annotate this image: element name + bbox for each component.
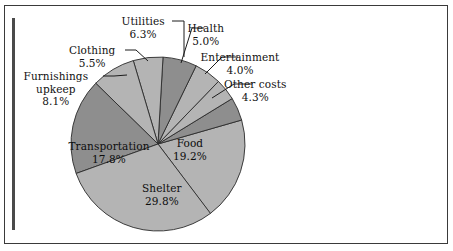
slice-label-food: Food19.2%: [173, 137, 207, 162]
slice-label-name: Furnishingsupkeep: [24, 70, 89, 95]
slice-label-percent: 5.5%: [69, 57, 115, 70]
slice-label-utilities: Utilities6.3%: [122, 15, 165, 40]
slice-label-name: Transportation: [69, 140, 150, 153]
slice-label-entertainment: Entertainment4.0%: [201, 51, 280, 76]
slice-label-percent: 6.3%: [122, 28, 165, 41]
slice-label-health: Health5.0%: [188, 22, 225, 47]
slice-label-name: Health: [188, 22, 225, 35]
slice-label-furnishings-upkeep: Furnishingsupkeep8.1%: [24, 70, 89, 108]
slice-label-percent: 19.2%: [173, 150, 207, 163]
slice-label-name: Clothing: [69, 44, 115, 57]
slice-label-name: Food: [173, 137, 207, 150]
slice-label-percent: 8.1%: [24, 95, 89, 108]
leader-line-utilities: [172, 21, 184, 57]
slice-label-name: Other costs: [224, 78, 286, 91]
pie-chart-canvas: [0, 0, 453, 251]
slice-label-name: Shelter: [142, 182, 182, 195]
slice-label-other-costs: Other costs4.3%: [224, 78, 286, 103]
slice-label-name: Entertainment: [201, 51, 280, 64]
slice-label-shelter: Shelter29.8%: [142, 182, 182, 207]
slice-label-percent: 4.3%: [224, 91, 286, 104]
slice-label-percent: 5.0%: [188, 35, 225, 48]
slice-label-name: Utilities: [122, 15, 165, 28]
pie-chart-figure: Food19.2%Other costs4.3%Entertainment4.0…: [0, 0, 453, 251]
slice-label-percent: 29.8%: [142, 195, 182, 208]
slice-label-clothing: Clothing5.5%: [69, 44, 115, 69]
slice-label-percent: 4.0%: [201, 64, 280, 77]
slice-label-transportation: Transportation17.8%: [69, 140, 150, 165]
slice-label-percent: 17.8%: [69, 153, 150, 166]
